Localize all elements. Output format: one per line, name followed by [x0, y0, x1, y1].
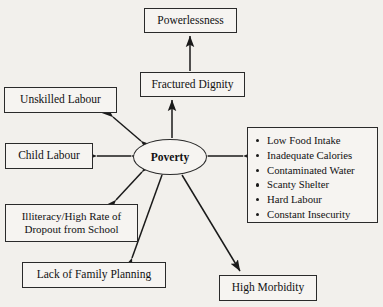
- node-high-morbidity-label: High Morbidity: [232, 281, 305, 295]
- list-item: Contaminated Water: [254, 163, 373, 178]
- list-item: Constant Insecurity: [254, 207, 373, 222]
- consequences-list: Low Food Intake Inadequate Calories Cont…: [254, 133, 373, 222]
- node-unskilled-labour-label: Unskilled Labour: [20, 93, 101, 107]
- node-powerlessness[interactable]: Powerlessness: [144, 8, 237, 33]
- list-item: Low Food Intake: [254, 133, 373, 148]
- node-child-labour[interactable]: Child Labour: [5, 143, 93, 169]
- node-illiteracy-label-line2: Dropout from School: [24, 223, 118, 236]
- list-item: Scanty Shelter: [254, 177, 373, 192]
- node-powerlessness-label: Powerlessness: [157, 14, 223, 28]
- node-child-labour-label: Child Labour: [18, 149, 80, 163]
- node-lack-of-family-planning-label: Lack of Family Planning: [37, 268, 152, 282]
- list-item: Hard Labour: [254, 192, 373, 207]
- node-consequences-list[interactable]: Low Food Intake Inadequate Calories Cont…: [247, 127, 378, 223]
- arrow-poverty-to-high-morbidity: [182, 175, 240, 271]
- arrow-poverty-to-illiteracy: [116, 172, 142, 200]
- node-lack-of-family-planning[interactable]: Lack of Family Planning: [22, 262, 166, 288]
- node-illiteracy[interactable]: Illiteracy/High Rate of Dropout from Sch…: [5, 204, 138, 242]
- node-poverty-center[interactable]: Poverty: [133, 139, 207, 175]
- node-illiteracy-label-line1: Illiteracy/High Rate of: [22, 210, 122, 223]
- node-poverty-label: Poverty: [151, 151, 189, 163]
- diagram-canvas: Powerlessness Fractured Dignity Unskille…: [0, 0, 383, 307]
- node-high-morbidity[interactable]: High Morbidity: [219, 275, 317, 301]
- node-fractured-dignity[interactable]: Fractured Dignity: [140, 72, 245, 97]
- node-fractured-dignity-label: Fractured Dignity: [151, 78, 233, 92]
- arrow-poverty-to-unskilled-labour: [113, 117, 141, 141]
- list-item: Inadequate Calories: [254, 148, 373, 163]
- node-unskilled-labour[interactable]: Unskilled Labour: [4, 87, 117, 113]
